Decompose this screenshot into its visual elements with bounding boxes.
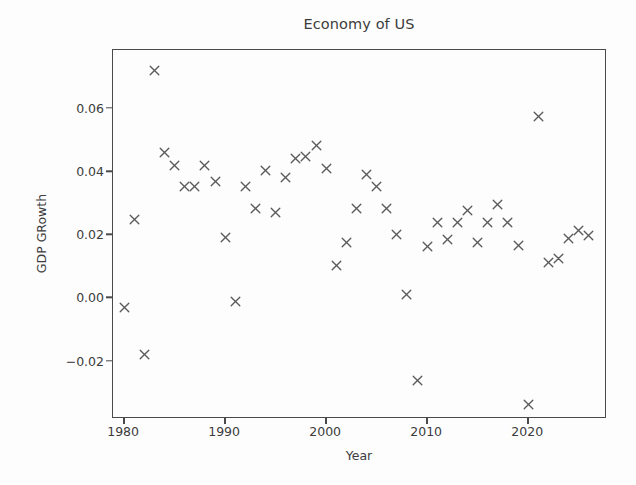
data-point-marker: [199, 160, 210, 171]
data-point-marker: [331, 260, 342, 271]
data-point-marker: [240, 181, 251, 192]
data-point-marker: [230, 296, 241, 307]
y-tick-label: 0.04: [52, 164, 104, 179]
data-point-marker: [169, 160, 180, 171]
x-axis-label: Year: [112, 448, 606, 463]
data-point-marker: [563, 233, 574, 244]
x-tick-label: 2000: [295, 424, 355, 439]
plot-frame: [112, 49, 606, 418]
y-tick-mark: [106, 360, 112, 361]
data-point-marker: [472, 237, 483, 248]
y-tick-mark: [106, 107, 112, 108]
data-point-marker: [371, 181, 382, 192]
data-point-marker: [321, 163, 332, 174]
y-tick-label: 0.02: [52, 227, 104, 242]
x-tick-mark: [527, 418, 528, 424]
data-point-marker: [482, 217, 493, 228]
data-point-marker: [179, 181, 190, 192]
x-tick-mark: [123, 418, 124, 424]
data-point-marker: [523, 399, 534, 410]
x-tick-label: 2010: [396, 424, 456, 439]
data-point-marker: [432, 217, 443, 228]
data-point-marker: [533, 111, 544, 122]
data-point-marker: [189, 181, 200, 192]
y-tick-mark: [106, 234, 112, 235]
data-point-marker: [391, 229, 402, 240]
data-point-marker: [422, 241, 433, 252]
data-point-marker: [583, 230, 594, 241]
data-point-marker: [311, 140, 322, 151]
data-point-marker: [381, 203, 392, 214]
data-point-marker: [573, 225, 584, 236]
y-tick-label: 0.00: [52, 290, 104, 305]
data-point-marker: [361, 169, 372, 180]
y-tick-mark: [106, 170, 112, 171]
x-tick-label: 1990: [194, 424, 254, 439]
y-tick-label: −0.02: [52, 353, 104, 368]
data-point-marker: [280, 172, 291, 183]
data-point-marker: [260, 165, 271, 176]
data-point-marker: [159, 147, 170, 158]
x-tick-mark: [224, 418, 225, 424]
data-point-marker: [442, 234, 453, 245]
scatter-plot-area: [113, 50, 605, 417]
y-tick-label: 0.06: [52, 101, 104, 116]
data-point-marker: [452, 217, 463, 228]
y-tick-mark: [106, 297, 112, 298]
data-point-marker: [129, 214, 140, 225]
x-tick-label: 1980: [93, 424, 153, 439]
x-tick-label: 2020: [497, 424, 557, 439]
data-point-marker: [210, 176, 221, 187]
data-point-marker: [462, 205, 473, 216]
data-point-marker: [139, 349, 150, 360]
data-point-marker: [250, 203, 261, 214]
figure-canvas: Economy of US −0.020.000.020.040.06 1980…: [0, 0, 636, 485]
data-point-marker: [149, 65, 160, 76]
data-point-marker: [553, 253, 564, 264]
data-point-marker: [502, 217, 513, 228]
y-axis-label: GDP GRowth: [34, 49, 54, 418]
data-point-marker: [492, 199, 503, 210]
data-point-marker: [351, 203, 362, 214]
data-point-marker: [341, 237, 352, 248]
data-point-marker: [220, 232, 231, 243]
x-tick-mark: [426, 418, 427, 424]
data-point-marker: [119, 302, 130, 313]
data-point-marker: [270, 207, 281, 218]
chart-title: Economy of US: [112, 16, 606, 32]
data-point-marker: [290, 153, 301, 164]
x-tick-mark: [325, 418, 326, 424]
data-point-marker: [300, 151, 311, 162]
data-point-marker: [543, 257, 554, 268]
data-point-marker: [412, 375, 423, 386]
data-point-marker: [401, 289, 412, 300]
data-point-marker: [513, 240, 524, 251]
